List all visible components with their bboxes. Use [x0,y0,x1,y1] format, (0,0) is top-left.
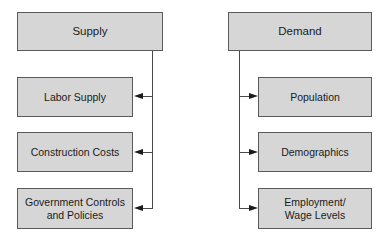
supply-child-construction-costs: Construction Costs [17,132,133,172]
demand-header-box: Demand [228,12,372,51]
arrow-left-icon [134,205,143,211]
supply-header-box: Supply [17,12,163,51]
arrow-left-icon [134,149,143,155]
demand-title: Demand [278,25,321,38]
supply-connector-vertical [152,51,153,209]
supply-connector-h2 [142,152,153,153]
demand-child-population: Population [258,77,372,117]
demand-child-label: Employment/ Wage Levels [284,196,345,222]
arrow-right-icon [249,93,258,99]
demand-child-label: Demographics [281,146,349,159]
demand-child-label: Population [290,91,340,104]
demand-connector-vertical [239,51,240,209]
supply-child-labor-supply: Labor Supply [17,77,133,117]
supply-child-label: Government Controls and Policies [25,196,125,222]
demand-child-demographics: Demographics [258,132,372,172]
arrow-right-icon [249,149,258,155]
supply-connector-h3 [142,208,153,209]
supply-connector-h1 [142,96,153,97]
arrow-left-icon [134,93,143,99]
demand-child-employment-wage: Employment/ Wage Levels [258,188,372,229]
arrow-right-icon [249,205,258,211]
supply-child-label: Labor Supply [44,91,106,104]
supply-child-government-controls: Government Controls and Policies [17,188,133,229]
supply-child-label: Construction Costs [31,146,120,159]
supply-title: Supply [72,25,107,38]
